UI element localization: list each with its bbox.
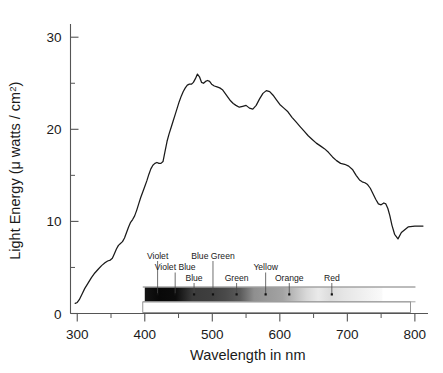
spectrum-label: Orange [275,273,304,283]
chart-canvas: 0102030300400500600700800Wavelength in n… [0,0,443,373]
x-axis-title: Wavelength in nm [190,347,306,363]
y-tick-label: 30 [46,30,61,45]
x-tick-label: 600 [269,327,292,342]
y-tick-label: 10 [46,214,61,229]
spectrum-label-dot [288,293,290,295]
spectrum-label-dot [236,293,238,295]
spectrum-label-dot [212,293,214,295]
spectrum-label: Green [225,273,249,283]
spectrum-band [145,288,383,302]
y-tick-label: 0 [54,307,62,322]
spectrum-label: Blue Green [191,251,235,261]
spectrum-label: Yellow [253,262,278,272]
x-tick-label: 500 [201,327,224,342]
spectrum-legend-box [143,302,411,313]
spectrum-label: Blue [185,273,202,283]
spectral-irradiance-chart: 0102030300400500600700800Wavelength in n… [0,0,443,373]
x-tick-label: 800 [404,327,427,342]
x-tick-label: 400 [134,327,157,342]
data-curve [75,74,423,303]
spectrum-label: Violet Blue [155,262,196,272]
x-tick-label: 300 [66,327,89,342]
spectrum-label-dot [265,293,267,295]
spectrum-label: Red [324,273,340,283]
spectrum-label: Violet [147,251,169,261]
spectrum-label-dot [157,293,159,295]
y-tick-label: 20 [46,122,61,137]
spectrum-label-dot [193,293,195,295]
spectrum-label-dot [174,293,176,295]
x-tick-label: 700 [336,327,359,342]
plot-area: 0102030300400500600700800Wavelength in n… [7,24,429,363]
spectrum-label-dot [331,293,333,295]
y-axis-title: Light Energy (μ watts / cm2) [7,82,24,260]
